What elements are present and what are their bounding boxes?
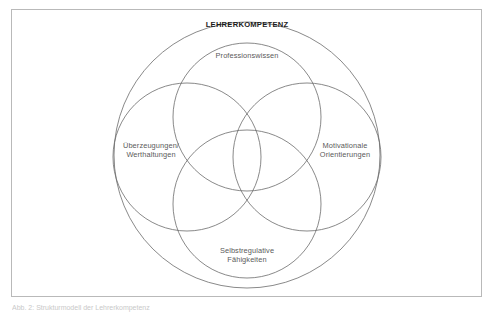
figure-caption: Abb. 2: Strukturmodell der Lehrerkompete…: [12, 303, 482, 313]
segment-label-line-2: Fähigkeiten: [192, 255, 302, 264]
segment-label-line-1: Selbstregulative: [192, 246, 302, 255]
figure-page: LEHRERKOMPETENZ Professionswissen Überze…: [0, 0, 499, 313]
segment-label-line-2: Orientierungen: [305, 150, 385, 159]
segment-label-ueberzeugungen-werthaltungen: Überzeugungen/ Werthaltungen: [112, 141, 190, 159]
segment-label-line-1: Motivationale: [305, 141, 385, 150]
segment-label-professionswissen: Professionswissen: [192, 51, 302, 60]
segment-label-line-2: Werthaltungen: [112, 150, 190, 159]
segment-label-selbstregulative-faehigkeiten: Selbstregulative Fähigkeiten: [192, 246, 302, 264]
segment-label-line-1: Überzeugungen/: [112, 141, 190, 150]
segment-label-motivationale-orientierungen: Motivationale Orientierungen: [305, 141, 385, 159]
segment-label-line-1: Professionswissen: [192, 51, 302, 60]
diagram-title-lehrerkompetenz: LEHRERKOMPETENZ: [187, 20, 307, 29]
